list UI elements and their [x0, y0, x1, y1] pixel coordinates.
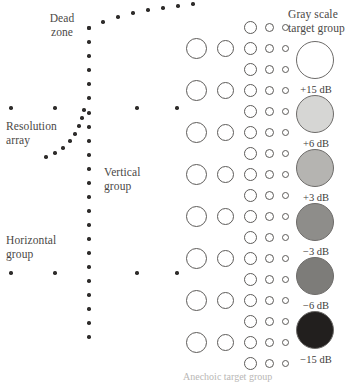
anechoic-target-col-5 [282, 339, 289, 346]
anechoic-target-col-5 [282, 255, 289, 262]
gray-scale-target-15dB [296, 41, 334, 79]
anechoic-target-col-5 [282, 66, 289, 73]
anechoic-target-col-2 [217, 250, 234, 267]
dead-zone-arc-dot [176, 4, 179, 7]
anechoic-target-col-3 [244, 231, 257, 244]
anechoic-target-col-4 [265, 170, 274, 179]
anechoic-target-col-3 [244, 315, 257, 328]
gray-scale-label-15dB: −15 dB [293, 354, 339, 365]
anechoic-target-col-4 [265, 296, 274, 305]
anechoic-target-col-1 [186, 164, 207, 185]
anechoic-target-col-5 [282, 87, 289, 94]
dead-zone-arc-dot [146, 8, 149, 11]
anechoic-target-col-3 [244, 252, 257, 265]
vertical-group-dot [87, 195, 90, 198]
vertical-group-dot [87, 139, 90, 142]
vertical-group-dot [87, 321, 90, 324]
label-anechoic-target-group: Anechoic target group [183, 371, 272, 382]
anechoic-target-col-5 [282, 129, 289, 136]
resolution-array-dot [80, 116, 83, 119]
horizontal-group-lower-dot [9, 271, 12, 274]
anechoic-target-col-4 [265, 254, 274, 263]
anechoic-target-col-4 [265, 212, 274, 221]
anechoic-target-col-1 [186, 38, 207, 59]
phantom-diagram: Dead zone Resolution array Vertical grou… [0, 0, 353, 382]
vertical-group-dot [87, 40, 90, 43]
anechoic-target-col-1 [186, 290, 207, 311]
anechoic-target-col-5 [282, 213, 289, 220]
anechoic-target-col-5 [282, 171, 289, 178]
dead-zone-arc-dot [131, 11, 134, 14]
vertical-group-dot [87, 125, 90, 128]
label-gray-scale-target-group: Gray scale target group [288, 8, 353, 35]
vertical-group-dot [87, 153, 90, 156]
resolution-array-dot [82, 108, 85, 111]
anechoic-target-col-2 [217, 292, 234, 309]
vertical-group-dot [87, 251, 90, 254]
anechoic-target-col-4 [265, 233, 274, 242]
vertical-group-dot [87, 54, 90, 57]
vertical-group-dot [87, 209, 90, 212]
anechoic-target-col-3 [244, 42, 257, 55]
vertical-group-dot [87, 307, 90, 310]
anechoic-target-col-5 [282, 192, 289, 199]
anechoic-target-col-3 [244, 147, 257, 160]
anechoic-target-col-2 [217, 166, 234, 183]
anechoic-target-col-3 [244, 336, 257, 349]
anechoic-target-col-5 [282, 234, 289, 241]
anechoic-target-col-3 [244, 63, 257, 76]
label-dead-zone: Dead zone [30, 12, 94, 39]
horizontal-group-upper-dot [9, 106, 12, 109]
anechoic-target-col-5 [282, 24, 289, 31]
dead-zone-arc-dot [101, 20, 104, 23]
gray-scale-target-6dB [296, 95, 334, 133]
vertical-group-dot [87, 181, 90, 184]
horizontal-group-upper-dot [53, 106, 56, 109]
anechoic-target-col-3 [244, 189, 257, 202]
vertical-group-dot [87, 26, 90, 29]
vertical-group-dot [87, 111, 90, 114]
vertical-group-dot [87, 293, 90, 296]
vertical-group-dot [87, 335, 90, 338]
anechoic-target-col-5 [282, 360, 289, 367]
horizontal-group-lower-dot [135, 271, 138, 274]
gray-scale-target-3dB [296, 203, 334, 241]
gray-scale-label-3dB: −3 dB [293, 246, 339, 257]
horizontal-group-upper-dot [175, 106, 178, 109]
anechoic-target-col-2 [217, 40, 234, 57]
anechoic-target-col-3 [244, 294, 257, 307]
anechoic-target-col-1 [186, 332, 207, 353]
anechoic-target-col-4 [265, 359, 274, 368]
anechoic-target-col-4 [265, 338, 274, 347]
dead-zone-arc-dot [116, 15, 119, 18]
anechoic-target-col-5 [282, 297, 289, 304]
anechoic-target-col-3 [244, 84, 257, 97]
anechoic-target-col-5 [282, 318, 289, 325]
anechoic-target-col-5 [282, 45, 289, 52]
anechoic-target-col-5 [282, 108, 289, 115]
label-resolution-array: Resolution array [6, 120, 102, 147]
anechoic-target-col-3 [244, 105, 257, 118]
gray-scale-target-15dB [296, 311, 334, 349]
resolution-array-dot [77, 124, 80, 127]
vertical-group-dot [87, 167, 90, 170]
anechoic-target-col-4 [265, 149, 274, 158]
anechoic-target-col-1 [186, 206, 207, 227]
horizontal-group-lower-dot [175, 271, 178, 274]
anechoic-target-col-4 [265, 317, 274, 326]
anechoic-target-col-5 [282, 150, 289, 157]
gray-scale-label-6dB: +6 dB [293, 138, 339, 149]
anechoic-target-col-4 [265, 23, 274, 32]
gray-scale-label-15dB: +15 dB [293, 84, 339, 95]
anechoic-target-col-3 [244, 168, 257, 181]
vertical-group-dot [87, 279, 90, 282]
resolution-array-dot [68, 139, 71, 142]
gray-scale-target-3dB [296, 149, 334, 187]
anechoic-target-col-4 [265, 275, 274, 284]
anechoic-target-col-4 [265, 44, 274, 53]
label-vertical-group: Vertical group [104, 166, 174, 193]
anechoic-target-col-1 [186, 122, 207, 143]
anechoic-target-col-3 [244, 210, 257, 223]
anechoic-target-col-4 [265, 86, 274, 95]
anechoic-target-col-3 [244, 126, 257, 139]
